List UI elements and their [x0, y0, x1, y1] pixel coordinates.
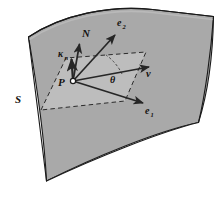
label-point-p: P [58, 76, 65, 88]
label-normal-n: N [81, 27, 91, 39]
figure-container: S P N κ n e 2 e 1 v θ [0, 0, 224, 216]
label-angle-theta: θ [110, 74, 116, 85]
label-basis-vector-e2: e [117, 17, 122, 28]
surface-patch-group [29, 8, 216, 216]
label-basis-vector-e1-subscript: 1 [151, 111, 154, 118]
point-p-marker [70, 78, 75, 83]
normal-curvature-vector [72, 59, 74, 81]
label-tangent-vector-v: v [146, 68, 151, 79]
label-normal-curvature-subscript: n [65, 54, 69, 61]
tangent-plane-diagram: S P N κ n e 2 e 1 v θ [0, 0, 224, 216]
label-surface-s: S [15, 93, 21, 105]
point-marker-group [70, 78, 75, 83]
label-basis-vector-e1: e [145, 105, 150, 116]
